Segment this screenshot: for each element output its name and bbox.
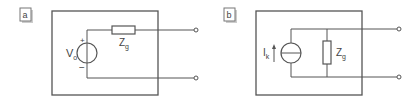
source-label-a: Vo: [66, 47, 77, 61]
terminal-a-top: [194, 28, 198, 32]
series-impedance-icon: [112, 26, 135, 34]
wire-a-output-bottom: [87, 63, 194, 78]
wire-b-bottom: [291, 63, 397, 77]
plus-sign: +: [80, 36, 85, 45]
voltage-source-icon: [77, 43, 97, 63]
current-direction-arrow-icon: [272, 44, 276, 62]
terminal-b-bottom: [397, 75, 401, 79]
diagram-b: b Ik Zg: [224, 8, 401, 95]
source-label-b: Ik: [263, 47, 270, 60]
tag-b-label: b: [227, 10, 232, 20]
enclosure-b: [256, 11, 362, 95]
terminal-b-top: [397, 27, 401, 31]
diagram-a: a + − Vo Zg: [20, 8, 198, 95]
impedance-label-b: Zg: [336, 47, 346, 61]
tag-a-label: a: [23, 10, 28, 20]
terminal-a-bottom: [194, 76, 198, 80]
minus-sign: −: [79, 62, 85, 73]
circuit-diagrams: a + − Vo Zg b: [0, 0, 417, 99]
tag-a: a: [20, 8, 33, 23]
tag-b: b: [224, 8, 237, 23]
wire-b-top: [291, 29, 397, 43]
shunt-impedance-icon: [323, 41, 331, 64]
impedance-label-a: Zg: [119, 37, 129, 51]
current-source-icon: [281, 43, 301, 63]
